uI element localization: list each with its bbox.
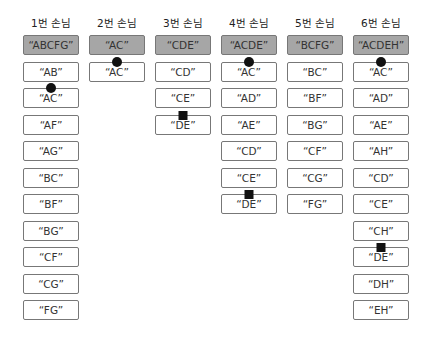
guest-label: 4번 손님: [221, 14, 277, 32]
pair-box: “AC”: [221, 62, 277, 82]
square-marker-icon: [377, 243, 386, 252]
pair-text: “AE”: [369, 119, 392, 131]
circle-marker-icon: [244, 57, 254, 67]
pair-text: “CH”: [368, 225, 393, 237]
pair-text: “EH”: [368, 304, 393, 316]
guest-label: 5번 손님: [287, 14, 343, 32]
pair-box: “CD”: [221, 141, 277, 161]
pair-text: “FG”: [303, 198, 328, 210]
pair-text: “AE”: [237, 119, 260, 131]
pair-text: “BC”: [302, 66, 327, 78]
pair-text: “CE”: [171, 92, 195, 104]
pair-text: “BG”: [38, 225, 63, 237]
square-marker-icon: [245, 190, 254, 199]
order-set-box: “AC”: [89, 35, 145, 55]
pair-text: “CE”: [237, 172, 261, 184]
pair-box: “AC”: [353, 62, 409, 82]
pair-box: “AD”: [221, 88, 277, 108]
pair-text: “CD”: [170, 66, 196, 78]
pair-box: “CH”: [353, 221, 409, 241]
order-set-box: “ABCFG”: [23, 35, 79, 55]
pair-text: “DE”: [368, 251, 393, 263]
guest-column-3: 3번 손님“CDE”“CD”“CE”“DE”: [155, 14, 211, 141]
pair-box: “BG”: [23, 221, 79, 241]
pair-box: “DH”: [353, 274, 409, 294]
pair-text: “AG”: [39, 145, 63, 157]
circle-marker-icon: [112, 57, 122, 67]
pair-box: “AE”: [221, 115, 277, 135]
pair-box: “CE”: [221, 168, 277, 188]
pair-text: “AD”: [369, 92, 394, 104]
pair-box: “CE”: [353, 194, 409, 214]
pair-box: “FG”: [287, 194, 343, 214]
pair-box: “CD”: [353, 168, 409, 188]
pair-box: “CF”: [287, 141, 343, 161]
order-set-box: “BCFG”: [287, 35, 343, 55]
guest-column-2: 2번 손님“AC”“AC”: [89, 14, 145, 88]
pair-text: “AC”: [39, 92, 63, 104]
pair-box: “AF”: [23, 115, 79, 135]
pair-text: “DH”: [368, 278, 394, 290]
guest-label: 2번 손님: [89, 14, 145, 32]
pair-box: “BG”: [287, 115, 343, 135]
pair-text: “AC”: [237, 66, 261, 78]
pair-text: “AB”: [39, 66, 62, 78]
guest-column-4: 4번 손님“ACDE”“AC”“AD”“AE”“CD”“CE”“DE”: [221, 14, 277, 221]
pair-text: “BF”: [39, 198, 63, 210]
order-set-box: “CDE”: [155, 35, 211, 55]
circle-marker-icon: [376, 57, 386, 67]
pair-box: “AC”: [23, 88, 79, 108]
order-set-box: “ACDEH”: [353, 35, 409, 55]
pair-text: “CD”: [368, 172, 394, 184]
pair-box: “AD”: [353, 88, 409, 108]
pair-box: “CF”: [23, 247, 79, 267]
pair-box: “CG”: [23, 274, 79, 294]
square-marker-icon: [179, 111, 188, 120]
pair-text: “DE”: [170, 119, 195, 131]
pair-text: “CE”: [369, 198, 393, 210]
pair-box: “BF”: [23, 194, 79, 214]
pair-box: “DE”: [155, 115, 211, 135]
pair-text: “FG”: [39, 304, 64, 316]
pair-text: “CD”: [236, 145, 262, 157]
pair-text: “AC”: [105, 66, 129, 78]
pair-text: “AD”: [237, 92, 262, 104]
pair-box: “CG”: [287, 168, 343, 188]
pair-text: “DE”: [236, 198, 261, 210]
pair-box: “DE”: [353, 247, 409, 267]
pair-box: “CE”: [155, 88, 211, 108]
guest-column-6: 6번 손님“ACDEH”“AC”“AD”“AE”“AH”“CD”“CE”“CH”…: [353, 14, 409, 327]
pair-text: “AC”: [369, 66, 393, 78]
pair-text: “CG”: [302, 172, 328, 184]
order-set-box: “ACDE”: [221, 35, 277, 55]
pair-text: “AF”: [40, 119, 63, 131]
pair-box: “DE”: [221, 194, 277, 214]
guest-label: 3번 손님: [155, 14, 211, 32]
pair-box: “AE”: [353, 115, 409, 135]
pair-text: “BC”: [38, 172, 63, 184]
pair-box: “BC”: [287, 62, 343, 82]
pair-text: “BF”: [303, 92, 327, 104]
guest-column-1: 1번 손님“ABCFG”“AB”“AC”“AF”“AG”“BC”“BF”“BG”…: [23, 14, 79, 327]
pair-box: “BC”: [23, 168, 79, 188]
pair-box: “BF”: [287, 88, 343, 108]
pair-text: “CF”: [303, 145, 327, 157]
pair-box: “FG”: [23, 300, 79, 320]
pair-box: “AC”: [89, 62, 145, 82]
guest-label: 6번 손님: [353, 14, 409, 32]
pair-box: “AH”: [353, 141, 409, 161]
pair-text: “BG”: [302, 119, 327, 131]
guest-label: 1번 손님: [23, 14, 79, 32]
circle-marker-icon: [46, 83, 56, 93]
pair-box: “AB”: [23, 62, 79, 82]
pair-box: “CD”: [155, 62, 211, 82]
pair-box: “AG”: [23, 141, 79, 161]
pair-text: “CG”: [38, 278, 64, 290]
pair-box: “EH”: [353, 300, 409, 320]
guest-column-5: 5번 손님“BCFG”“BC”“BF”“BG”“CF”“CG”“FG”: [287, 14, 343, 221]
pair-text: “AH”: [369, 145, 393, 157]
pair-text: “CF”: [39, 251, 63, 263]
